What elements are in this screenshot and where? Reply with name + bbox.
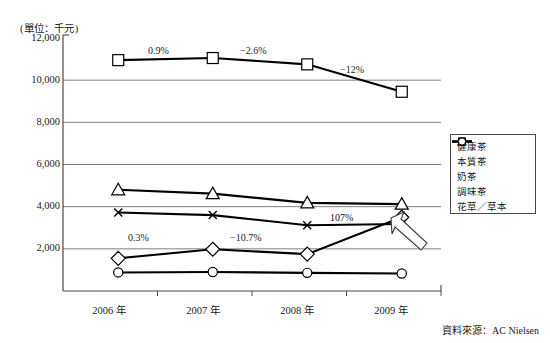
data-point-square (207, 53, 218, 64)
series-line-cross (118, 213, 402, 226)
series-line-diamond (118, 217, 402, 258)
data-point-circle (114, 268, 123, 277)
data-point-square (302, 59, 313, 70)
line-chart: (單位：千元) 12,000 10,000 8,000 6,000 4,000 … (0, 0, 550, 343)
data-point-square (396, 86, 407, 97)
data-point-circle (397, 269, 406, 278)
data-point-circle (303, 268, 312, 277)
data-point-diamond (111, 251, 125, 265)
series-line-circle (118, 272, 402, 273)
data-point-circle (208, 267, 217, 276)
series-line-square (118, 58, 402, 92)
plot-area (0, 0, 550, 343)
data-point-square (113, 55, 124, 66)
data-point-diamond (206, 242, 220, 256)
series-line-triangle (118, 190, 402, 204)
